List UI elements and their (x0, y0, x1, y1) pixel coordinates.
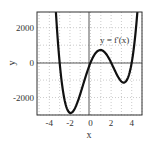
curve-annotation: y = f'(x) (100, 35, 129, 45)
x-tick-label: 2 (109, 118, 114, 128)
y-tick-label: -2000 (13, 93, 34, 103)
x-tick-label: 0 (88, 118, 93, 128)
x-axis-label: x (87, 129, 92, 140)
y-tick-label: 0 (30, 58, 35, 68)
x-tick-label: 4 (129, 118, 134, 128)
curve-f-prime (52, 0, 139, 113)
chart-figure: -4-2024 -200002000 x y y = f'(x) (0, 0, 150, 144)
x-tick-label: -4 (46, 118, 54, 128)
y-axis-label: y (6, 61, 17, 66)
y-tick-label: 2000 (16, 23, 35, 33)
x-tick-labels: -4-2024 (46, 118, 135, 128)
x-tick-label: -2 (66, 118, 74, 128)
